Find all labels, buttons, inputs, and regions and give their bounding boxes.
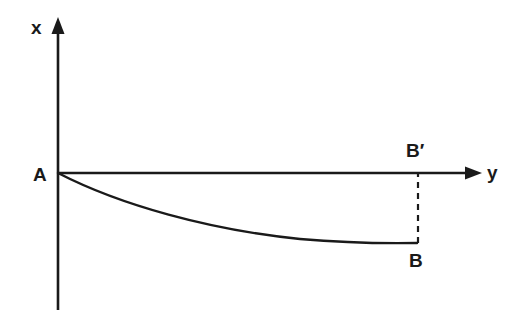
point-label-a: A bbox=[33, 165, 47, 184]
vertical-axis-group bbox=[52, 17, 65, 310]
diagram-svg bbox=[0, 0, 523, 323]
arrow-right-icon bbox=[465, 167, 482, 180]
point-label-b: B bbox=[409, 251, 423, 270]
axis-label-y: y bbox=[487, 163, 498, 182]
axis-label-x: x bbox=[31, 18, 42, 37]
point-label-b-prime: B′ bbox=[406, 141, 424, 160]
arrow-up-icon bbox=[52, 17, 65, 34]
figure-canvas: x y A B′ B bbox=[0, 0, 523, 323]
curve-path-a-to-b bbox=[58, 173, 417, 243]
